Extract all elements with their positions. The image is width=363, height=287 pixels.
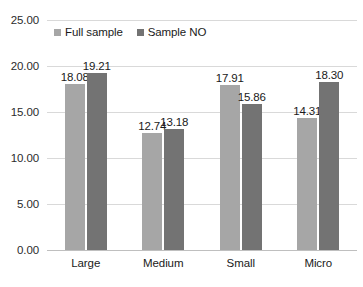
bar-groups: 18.0819.21 12.7413.18 17.9115.86 14.3118…: [47, 20, 357, 250]
y-tick-label: 15.00: [11, 106, 39, 118]
bar: 17.91: [220, 85, 240, 250]
bar: 12.74: [142, 133, 162, 250]
bar-group: 18.0819.21: [47, 20, 125, 250]
bar-value-label: 15.86: [238, 91, 266, 103]
bar: 19.21: [87, 73, 107, 250]
legend-swatch-icon: [54, 29, 61, 36]
bar-value-label: 19.21: [83, 60, 111, 72]
bar-group: 17.9115.86: [202, 20, 280, 250]
legend-swatch-icon: [137, 29, 144, 36]
x-axis: Large Medium Small Micro: [47, 252, 357, 276]
bar-value-label: 17.91: [216, 72, 244, 84]
x-category-label: Small: [202, 252, 280, 276]
bar-value-label: 14.31: [293, 105, 321, 117]
bar: 15.86: [242, 104, 262, 250]
bar-group: 12.7413.18: [125, 20, 203, 250]
bar-value-label: 13.18: [160, 116, 188, 128]
bar: 18.08: [65, 84, 85, 250]
bar-value-label: 18.30: [315, 69, 343, 81]
y-axis: 25.00 20.00 15.00 10.00 5.00 0.00: [0, 0, 44, 287]
x-category-label: Large: [47, 252, 125, 276]
legend-label: Full sample: [65, 26, 123, 38]
legend: Full sample Sample NO: [54, 26, 206, 38]
bar: 18.30: [319, 82, 339, 250]
bar-group: 14.3118.30: [280, 20, 358, 250]
bar-chart: 25.00 20.00 15.00 10.00 5.00 0.00 18.081…: [0, 0, 363, 287]
legend-item-sample-no[interactable]: Sample NO: [137, 26, 207, 38]
y-tick-label: 20.00: [11, 60, 39, 72]
y-tick-label: 0.00: [17, 244, 39, 256]
bar-value-label: 18.08: [61, 71, 89, 83]
plot-area: 18.0819.21 12.7413.18 17.9115.86 14.3118…: [47, 20, 357, 250]
y-tick-label: 5.00: [17, 198, 39, 210]
x-category-label: Medium: [125, 252, 203, 276]
bar: 13.18: [164, 129, 184, 250]
y-tick-label: 10.00: [11, 152, 39, 164]
axis-baseline: [47, 250, 357, 251]
x-category-label: Micro: [280, 252, 358, 276]
legend-item-full-sample[interactable]: Full sample: [54, 26, 123, 38]
bar: 14.31: [297, 118, 317, 250]
y-tick-label: 25.00: [11, 14, 39, 26]
legend-label: Sample NO: [148, 26, 207, 38]
